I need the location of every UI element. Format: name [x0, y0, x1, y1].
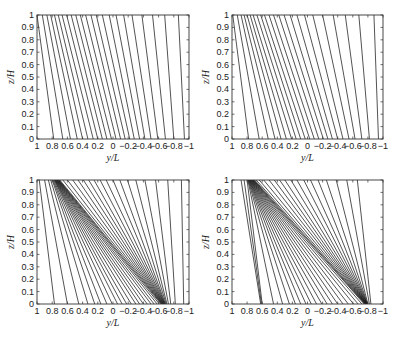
x-tick-label: 0.6: [256, 306, 269, 316]
streamline: [255, 180, 364, 304]
y-tick-label: 0.9: [216, 22, 229, 32]
y-tick-label: 0.4: [216, 84, 229, 94]
x-axis-label: y/L: [106, 152, 120, 163]
streamline: [323, 15, 349, 139]
streamline: [56, 180, 135, 304]
streamlines: [241, 180, 371, 304]
y-tick-label: 0.8: [21, 200, 34, 210]
y-tick-label: 0.3: [216, 97, 229, 107]
streamline: [60, 180, 161, 304]
y-tick-label: 0.7: [21, 212, 34, 222]
streamline: [181, 180, 183, 304]
figure-canvas: 10.80.60.40.20−0.2−0.4−0.6−0.8−100.10.20…: [0, 0, 400, 339]
streamline: [153, 15, 166, 139]
y-tick-label: 0.9: [21, 187, 34, 197]
y-axis-label: z/H: [200, 69, 211, 85]
y-tick-label: 0.3: [216, 262, 229, 272]
x-tick-label: −1: [184, 306, 194, 316]
x-tick-label: 0.4: [76, 141, 89, 151]
streamline: [251, 180, 322, 304]
x-tick-label: 1: [34, 306, 39, 316]
y-tick-label: 0.2: [216, 109, 229, 119]
streamline: [165, 15, 174, 139]
streamline: [156, 180, 171, 304]
streamline: [345, 15, 362, 139]
subplot-top-right: 10.80.60.40.20−0.2−0.4−0.6−0.8−100.10.20…: [200, 10, 388, 163]
y-tick-label: 0.6: [216, 60, 229, 70]
y-tick-label: 0.1: [216, 287, 229, 297]
x-tick-label: 0.2: [92, 141, 105, 151]
x-tick-label: 0.8: [241, 141, 254, 151]
x-tick-label: 0.4: [271, 141, 284, 151]
y-axis-label: z/H: [5, 69, 16, 85]
streamline: [39, 180, 54, 304]
y-tick-label: 0.4: [21, 84, 34, 94]
x-tick-label: 0: [305, 306, 310, 316]
x-axis-label: y/L: [106, 317, 120, 328]
x-tick-label: 0.8: [46, 306, 59, 316]
x-tick-label: 0.4: [271, 306, 284, 316]
subplot-top-left: 10.80.60.40.20−0.2−0.4−0.6−0.8−100.10.20…: [5, 10, 194, 163]
streamline: [54, 180, 112, 304]
x-tick-label: 0.2: [286, 141, 299, 151]
y-tick-label: 0.3: [21, 262, 34, 272]
x-tick-label: 0: [305, 141, 310, 151]
y-axis-label: z/H: [5, 234, 16, 250]
y-tick-label: 1: [224, 175, 229, 185]
x-tick-label: −0.8: [359, 306, 377, 316]
streamline: [304, 15, 337, 139]
streamline: [253, 180, 349, 304]
y-tick-label: 0.1: [216, 122, 229, 132]
streamline: [252, 180, 338, 304]
x-tick-label: 0.8: [241, 306, 254, 316]
streamline: [145, 180, 169, 304]
y-tick-label: 0.6: [21, 225, 34, 235]
y-tick-label: 0.9: [216, 187, 229, 197]
x-tick-label: −0.8: [165, 306, 183, 316]
y-tick-label: 0.5: [21, 237, 34, 247]
streamline: [100, 180, 164, 304]
y-tick-label: 0: [29, 134, 34, 144]
y-tick-label: 1: [29, 10, 34, 20]
x-tick-label: −1: [378, 306, 388, 316]
y-tick-label: 0.4: [21, 249, 34, 259]
x-tick-label: −0.8: [359, 141, 377, 151]
streamlines: [39, 180, 183, 304]
streamline: [58, 180, 148, 304]
x-tick-label: 0.6: [61, 306, 74, 316]
y-tick-label: 0: [224, 134, 229, 144]
y-tick-label: 0.2: [21, 109, 34, 119]
y-tick-label: 0.8: [216, 200, 229, 210]
streamline: [168, 180, 176, 304]
y-tick-label: 0.5: [21, 72, 34, 82]
streamlines: [233, 15, 379, 139]
y-tick-label: 0: [29, 299, 34, 309]
y-tick-label: 0.1: [21, 122, 34, 132]
x-tick-label: 0.4: [76, 306, 89, 316]
streamline: [251, 180, 327, 304]
y-tick-label: 0.6: [21, 60, 34, 70]
streamline: [326, 180, 367, 304]
x-tick-label: 1: [229, 306, 234, 316]
subplot-bottom-left: 10.80.60.40.20−0.2−0.4−0.6−0.8−100.10.20…: [5, 175, 194, 328]
x-tick-label: 0.6: [256, 141, 269, 151]
x-tick-label: 0.8: [46, 141, 59, 151]
streamline: [241, 180, 261, 304]
y-tick-label: 0.6: [216, 225, 229, 235]
streamline: [116, 15, 140, 139]
y-tick-label: 1: [224, 10, 229, 20]
y-tick-label: 0.7: [216, 212, 229, 222]
streamline: [58, 180, 154, 304]
y-tick-label: 0.4: [216, 249, 229, 259]
subplot-bottom-right: 10.80.60.40.20−0.2−0.4−0.6−0.8−100.10.20…: [200, 175, 388, 328]
y-tick-label: 0.3: [21, 97, 34, 107]
streamline: [290, 15, 328, 139]
y-tick-label: 0.8: [216, 35, 229, 45]
streamline: [76, 15, 107, 139]
streamline: [297, 15, 332, 139]
y-tick-label: 0.2: [216, 274, 229, 284]
x-tick-label: 0: [110, 306, 115, 316]
x-tick-label: 1: [229, 141, 234, 151]
streamline: [54, 180, 107, 304]
x-tick-label: 0.6: [61, 141, 74, 151]
